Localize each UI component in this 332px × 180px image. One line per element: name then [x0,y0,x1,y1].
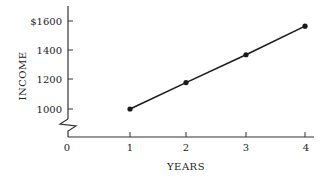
y-tick-labels: $1600 1400 1200 1000 [30,16,62,115]
y-axis-break-icon [60,119,76,137]
data-point-marker [183,80,188,85]
y-tick-label: 1000 [37,104,62,115]
data-point-marker [127,106,132,111]
y-ticks [68,21,73,109]
x-tick-label: 3 [243,142,249,153]
y-tick-label: $1600 [30,16,62,27]
y-tick-label: 1400 [37,45,62,56]
data-point-marker [302,24,307,29]
x-ticks [130,132,305,137]
income-line-chart: $1600 1400 1200 1000 0 1 2 3 4 YEARS INC… [0,0,332,180]
x-axis-label: YEARS [166,161,205,172]
x-tick-label: 1 [127,142,133,153]
income-series-line [130,26,305,109]
x-tick-label: 0 [64,142,70,153]
y-axis-label: INCOME [17,51,28,100]
x-tick-label: 4 [303,142,309,153]
y-tick-label: 1200 [37,74,62,85]
x-tick-label: 2 [183,142,189,153]
x-tick-labels: 0 1 2 3 4 [64,142,309,153]
data-point-marker [243,52,248,57]
